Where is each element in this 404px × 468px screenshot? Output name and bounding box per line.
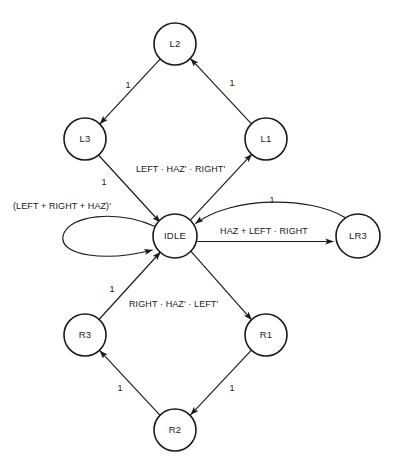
transition-r3-to-idle: 1 xyxy=(99,252,161,320)
state-node-idle[interactable]: IDLE xyxy=(153,214,197,258)
transition-r2-to-r3: 1 xyxy=(100,351,160,415)
edge-label-r2-r3: 1 xyxy=(117,383,122,393)
edge-line-idle-r1 xyxy=(191,251,252,320)
state-label-r2: R2 xyxy=(169,424,182,435)
edge-label-l2-l3: 1 xyxy=(125,80,130,90)
state-label-l3: L3 xyxy=(80,133,91,144)
state-label-r1: R1 xyxy=(260,329,273,340)
edge-label-l1-l2: 1 xyxy=(229,78,234,88)
state-node-l3[interactable]: L3 xyxy=(64,118,106,160)
transition-idle-self-loop: (LEFT + RIGHT + HAZ)' xyxy=(13,201,155,256)
transition-idle-to-l1: LEFT · HAZ' · RIGHT' xyxy=(136,154,252,220)
state-label-lr3: LR3 xyxy=(349,230,367,241)
edge-line-l1-l2 xyxy=(191,59,252,124)
edge-label-r1-r2: 1 xyxy=(229,383,234,393)
state-node-l2[interactable]: L2 xyxy=(154,23,196,65)
edge-label-idle-r1: RIGHT · HAZ' · LEFT' xyxy=(129,299,218,309)
state-machine-canvas: 1 1 1 LEFT · HAZ' · RIGHT' (LEFT + RIGHT… xyxy=(0,0,404,468)
edge-line-r3-idle xyxy=(99,252,161,320)
state-label-r3: R3 xyxy=(79,329,92,340)
edge-line-lr3-idle xyxy=(196,202,346,223)
edge-line-r1-r2 xyxy=(191,350,252,414)
edge-label-idle-lr3: HAZ + LEFT · RIGHT xyxy=(220,226,308,236)
state-diagram: 1 1 1 LEFT · HAZ' · RIGHT' (LEFT + RIGHT… xyxy=(0,0,404,468)
edge-line-idle-self xyxy=(63,216,155,256)
transition-r1-to-r2: 1 xyxy=(191,350,252,414)
edge-label-lr3-idle: 1 xyxy=(269,195,274,205)
edge-line-l2-l3 xyxy=(100,59,160,124)
transition-idle-to-lr3: HAZ + LEFT · RIGHT xyxy=(198,226,334,242)
edge-label-idle-l1: LEFT · HAZ' · RIGHT' xyxy=(136,164,225,174)
state-label-l2: L2 xyxy=(170,38,181,49)
state-node-r1[interactable]: R1 xyxy=(245,314,287,356)
state-node-r2[interactable]: R2 xyxy=(154,409,196,451)
transition-lr3-to-idle: 1 xyxy=(196,195,346,224)
transition-l1-to-l2: 1 xyxy=(191,59,252,124)
edge-label-idle-self: (LEFT + RIGHT + HAZ)' xyxy=(13,201,111,211)
transition-idle-to-r1: RIGHT · HAZ' · LEFT' xyxy=(129,251,252,320)
state-node-l1[interactable]: L1 xyxy=(245,118,287,160)
transition-l2-to-l3: 1 xyxy=(100,59,160,124)
edge-line-r2-r3 xyxy=(100,351,160,415)
state-label-idle: IDLE xyxy=(164,230,186,241)
state-node-lr3[interactable]: LR3 xyxy=(336,214,380,258)
edge-label-l3-idle: 1 xyxy=(101,177,106,187)
edge-label-r3-idle: 1 xyxy=(109,284,114,294)
state-node-r3[interactable]: R3 xyxy=(64,314,106,356)
state-label-l1: L1 xyxy=(261,133,272,144)
